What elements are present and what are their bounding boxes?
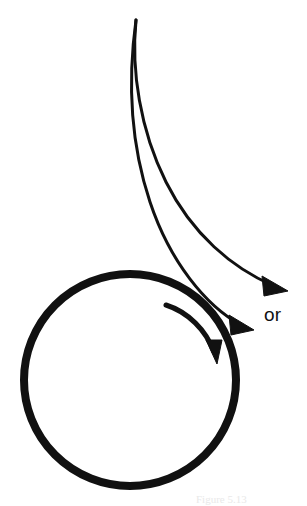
ball-circle (24, 274, 236, 486)
figure-canvas: or Figure 5.13 (0, 0, 307, 506)
or-label: or (264, 305, 281, 324)
trajectory-lower-curve (132, 20, 254, 335)
diagram-svg (0, 0, 307, 506)
trajectory-upper-curve (135, 20, 288, 296)
figure-caption: Figure 5.13 (196, 494, 247, 505)
